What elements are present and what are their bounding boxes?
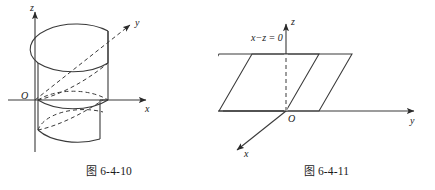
figure-6-4-11: y z x O x−z = 0 图6-4-11	[218, 0, 435, 190]
z-axis-label: z	[29, 2, 34, 13]
x-axis-label: x	[144, 103, 150, 114]
origin-label: O	[21, 90, 28, 101]
plane-diagram: y z x O x−z = 0	[218, 0, 435, 162]
caption-number: 6-4-10	[100, 165, 132, 177]
figure-caption: 图6-4-10	[0, 162, 218, 178]
y-axis-label: y	[409, 115, 415, 126]
middle-ellipse-front-arc	[38, 100, 108, 109]
caption-number: 6-4-11	[318, 165, 349, 177]
bottom-ellipse-front-arc	[38, 130, 100, 142]
figure-page: z x y O	[0, 0, 435, 190]
figure-6-4-10: z x y O	[0, 0, 218, 190]
y-axis-label: y	[134, 17, 140, 28]
top-ellipse-front-arc	[38, 63, 108, 72]
middle-ellipse-back-arc	[38, 91, 108, 100]
top-ellipse-back-arc	[30, 24, 108, 63]
x-axis-line	[237, 111, 286, 150]
y-axis-line	[35, 25, 130, 100]
origin-label: O	[288, 113, 295, 124]
plane-parallelogram-left	[218, 54, 319, 111]
figure-caption: 图6-4-11	[218, 162, 435, 178]
caption-cjk-label: 图	[304, 165, 315, 178]
x-axis-label: x	[243, 148, 249, 159]
bottom-ellipse-back-arc	[38, 110, 103, 130]
cylinder-diagram: z x y O	[0, 0, 218, 162]
caption-cjk-label: 图	[86, 165, 97, 178]
z-axis-label: z	[290, 16, 295, 27]
plane-equation-label: x−z = 0	[250, 32, 283, 43]
